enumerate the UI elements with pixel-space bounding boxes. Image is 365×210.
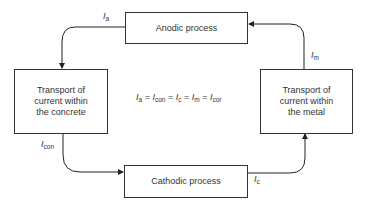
metal-line-3: the metal bbox=[280, 107, 334, 118]
label-Im: Im bbox=[311, 50, 319, 61]
current-equality-equation: Ia = Icon = Ic = Im = Icor bbox=[136, 92, 221, 103]
metal-transport-box: Transport of current within the metal bbox=[260, 69, 353, 134]
concrete-transport-box: Transport of current within the concrete bbox=[14, 69, 108, 134]
label-Ia: Ia bbox=[103, 11, 109, 22]
metal-line-2: current within bbox=[280, 96, 334, 107]
cathodic-process-label: Cathodic process bbox=[151, 176, 221, 187]
label-Ic: Ic bbox=[254, 174, 260, 185]
label-Icon: Icon bbox=[41, 139, 54, 150]
concrete-line-3: the concrete bbox=[34, 107, 88, 118]
cathodic-process-box: Cathodic process bbox=[124, 165, 248, 198]
concrete-line-2: current within bbox=[34, 96, 88, 107]
concrete-line-1: Transport of bbox=[34, 85, 88, 96]
metal-line-1: Transport of bbox=[280, 85, 334, 96]
anodic-process-box: Anodic process bbox=[125, 12, 248, 44]
anodic-process-label: Anodic process bbox=[156, 23, 218, 34]
